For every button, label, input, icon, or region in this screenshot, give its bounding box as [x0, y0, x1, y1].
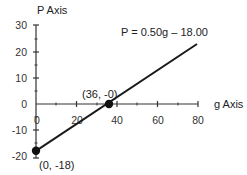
y-axis-label: P Axis: [37, 4, 68, 16]
chart-canvas: 30 20 10 0 -10 -20 0 20 40 60 80 P Axis …: [0, 0, 247, 175]
x-tick-60: 60: [152, 114, 164, 126]
y-tick-0: 0: [21, 98, 27, 110]
x-axis: [36, 101, 198, 107]
y-tick-30: 30: [15, 19, 27, 31]
y-tick-minus-10: -10: [12, 124, 27, 136]
point-label-y-intercept: (0, -18): [39, 159, 74, 171]
x-axis-label: g Axis: [214, 98, 244, 110]
y-tick-10: 10: [15, 72, 27, 84]
x-tick-80: 80: [192, 114, 204, 126]
y-tick-minus-20: -20: [12, 150, 27, 162]
equation-label: P = 0.50g – 18.00: [121, 26, 208, 38]
point-x-intercept: [105, 100, 113, 108]
point-y-intercept: [32, 147, 40, 155]
x-tick-0: 0: [34, 114, 40, 126]
y-axis: [33, 25, 39, 158]
y-tick-20: 20: [15, 46, 27, 58]
x-tick-40: 40: [111, 114, 123, 126]
point-label-x-intercept: (36, -0): [82, 88, 117, 100]
